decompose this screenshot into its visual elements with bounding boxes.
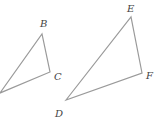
vertex-label-d: D [54, 108, 63, 119]
triangle-def [66, 17, 142, 100]
triangles-diagram: B C E F D [0, 0, 160, 130]
vertex-label-b: B [39, 18, 47, 29]
triangle-abc [0, 34, 50, 93]
vertex-label-f: F [145, 70, 154, 81]
vertex-label-c: C [54, 71, 62, 82]
vertex-label-e: E [126, 3, 135, 14]
